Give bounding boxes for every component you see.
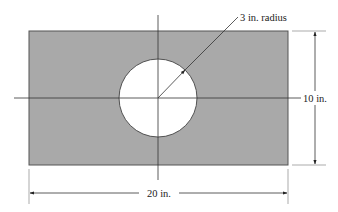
diagram-canvas: 3 in. radius 10 in. 20 in. [0, 0, 338, 212]
width-label: 20 in. [147, 188, 171, 199]
plate-diagram: 3 in. radius 10 in. 20 in. [0, 0, 338, 212]
height-label: 10 in. [303, 93, 327, 104]
radius-label: 3 in. radius [240, 12, 287, 23]
